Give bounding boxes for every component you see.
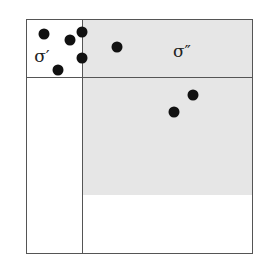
horizontal-divider — [26, 77, 253, 78]
data-point — [39, 29, 50, 40]
outer-box — [26, 19, 253, 254]
sigma-prime-label: σ′ — [34, 46, 49, 66]
partition-diagram: σ′ σ″ — [0, 0, 270, 264]
data-point — [77, 53, 88, 64]
data-point — [112, 42, 123, 53]
data-point — [77, 27, 88, 38]
data-point — [188, 90, 199, 101]
data-point — [169, 107, 180, 118]
sigma-double-prime-label: σ″ — [173, 41, 191, 61]
data-point — [53, 65, 64, 76]
data-point — [65, 35, 76, 46]
